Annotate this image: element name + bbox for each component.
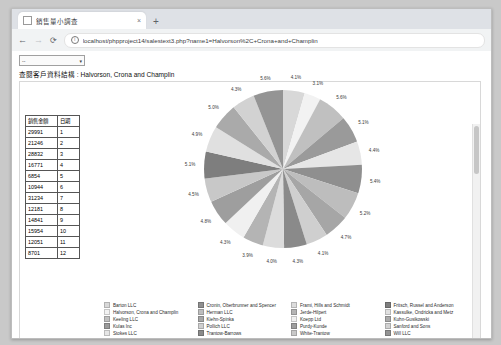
forward-icon[interactable]: → xyxy=(34,35,43,45)
legend-swatch xyxy=(291,330,297,336)
legend-swatch xyxy=(198,323,204,329)
chevron-down-icon: ▾ xyxy=(79,58,82,64)
legend-item: Herman LLC xyxy=(198,309,288,315)
slice-percent-label: 4.5% xyxy=(188,192,198,197)
legend-item: Fritsch, Russel and Anderson xyxy=(385,302,475,308)
legend-item: Kulas Inc xyxy=(104,323,194,329)
slice-percent-label: 5.6% xyxy=(260,75,270,80)
slice-percent-label: 5.6% xyxy=(336,94,346,99)
chart-legend: Barton LLCCronin, Oberbrunner and Spence… xyxy=(104,302,474,336)
legend-item: Sanford and Sons xyxy=(385,323,475,329)
pie-slices xyxy=(204,90,362,248)
legend-item: Cronin, Oberbrunner and Spencer xyxy=(198,302,288,308)
legend-label: Will LLC xyxy=(394,331,411,336)
legend-item: Kiehn-Spinka xyxy=(198,316,288,322)
slice-percent-label: 3.9% xyxy=(242,252,252,257)
legend-item: Koepp Ltd xyxy=(291,316,381,322)
legend-swatch xyxy=(291,302,297,308)
close-icon[interactable]: × xyxy=(137,17,141,24)
legend-swatch xyxy=(385,309,391,315)
customer-select-value: -- xyxy=(22,58,25,64)
cell-date: 8 xyxy=(58,204,80,215)
legend-label: Kassulke, Ondricka and Metz xyxy=(394,310,454,315)
tab-title: 銷售量小調查 xyxy=(36,16,133,26)
legend-swatch xyxy=(291,309,297,315)
url-text: localhost/phpproject14/salestext3.php?na… xyxy=(83,37,318,44)
cell-amount: 28832 xyxy=(26,149,58,160)
slice-percent-label: 5.4% xyxy=(370,178,380,183)
legend-item: Jerde-Hilpert xyxy=(291,309,381,315)
cell-date: 3 xyxy=(58,149,80,160)
cell-amount: 12181 xyxy=(26,204,58,215)
browser-tab[interactable]: 銷售量小調查 × xyxy=(18,12,146,29)
legend-item: White-Trantow xyxy=(291,330,381,336)
legend-swatch xyxy=(198,330,204,336)
slice-percent-label: 5.2% xyxy=(360,210,370,215)
column-header-amount: 銷售金額 xyxy=(26,116,58,127)
legend-item: Frami, Hills and Schmidt xyxy=(291,302,381,308)
new-tab-button[interactable]: + xyxy=(153,16,159,27)
legend-label: Kulas Inc xyxy=(113,324,132,329)
slice-percent-label: 4.4% xyxy=(369,148,379,153)
pie-chart: 4.1%3.1%5.6%5.1%4.4%5.4%5.2%4.7%4.1%4.3%… xyxy=(98,84,478,338)
legend-label: Pollich LLC xyxy=(207,324,230,329)
table-row: 288323 xyxy=(26,149,80,160)
browser-toolbar: ← → ⟳ i localhost/phpproject14/salestext… xyxy=(12,29,491,51)
legend-item: Pollich LLC xyxy=(198,323,288,329)
address-bar[interactable]: i localhost/phpproject14/salestext3.php?… xyxy=(64,33,485,48)
cell-date: 7 xyxy=(58,193,80,204)
cell-amount: 12051 xyxy=(26,237,58,248)
cell-date: 6 xyxy=(58,182,80,193)
table-row: 109446 xyxy=(26,182,80,193)
sales-table: 銷售金額 日期 29991121246228832316771468545109… xyxy=(25,115,80,259)
slice-percent-label: 5.1% xyxy=(185,162,195,167)
table-body: 2999112124622883231677146854510944631234… xyxy=(26,127,80,259)
legend-label: Fritsch, Russel and Anderson xyxy=(394,303,454,308)
cell-date: 11 xyxy=(58,237,80,248)
table-row: 212462 xyxy=(26,138,80,149)
info-icon[interactable]: i xyxy=(71,36,79,44)
cell-date: 4 xyxy=(58,160,80,171)
legend-label: Purdy-Kunde xyxy=(300,324,327,329)
back-icon[interactable]: ← xyxy=(18,35,27,45)
browser-window: 銷售量小調查 × + ← → ⟳ i localhost/phpproject1… xyxy=(11,8,492,339)
vertical-scrollbar[interactable] xyxy=(472,124,480,338)
slice-percent-label: 5.1% xyxy=(358,120,368,125)
customer-select[interactable]: -- ▾ xyxy=(19,55,85,66)
reload-icon[interactable]: ⟳ xyxy=(50,36,57,45)
page-content: -- ▾ 查閱客戶資料結構 : Halvorson, Crona and Cha… xyxy=(12,51,491,338)
legend-swatch xyxy=(104,330,110,336)
legend-label: Halvorson, Crona and Champlin xyxy=(113,310,178,315)
legend-swatch xyxy=(198,302,204,308)
report-panel: 銷售金額 日期 29991121246228832316771468545109… xyxy=(19,81,481,338)
legend-label: Kiehn-Spinka xyxy=(207,317,234,322)
legend-swatch xyxy=(104,316,110,322)
legend-item: Kassulke, Ondricka and Metz xyxy=(385,309,475,315)
table-row: 299911 xyxy=(26,127,80,138)
slice-percent-label: 4.3% xyxy=(293,258,303,263)
legend-swatch xyxy=(291,323,297,329)
legend-label: Frami, Hills and Schmidt xyxy=(300,303,350,308)
slice-percent-label: 4.8% xyxy=(201,218,211,223)
legend-item: Kuhn-Gusikowski xyxy=(385,316,475,322)
slice-percent-label: 4.7% xyxy=(341,235,351,240)
slice-percent-label: 4.1% xyxy=(318,250,328,255)
cell-amount: 15954 xyxy=(26,226,58,237)
table-header-row: 銷售金額 日期 xyxy=(26,116,80,127)
slice-percent-label: 3.1% xyxy=(313,80,323,85)
legend-label: Kuhn-Gusikowski xyxy=(394,317,430,322)
legend-swatch xyxy=(291,316,297,322)
slice-percent-label: 4.3% xyxy=(220,239,230,244)
pie-plot-area: 4.1%3.1%5.6%5.1%4.4%5.4%5.2%4.7%4.1%4.3%… xyxy=(188,90,378,262)
legend-swatch xyxy=(198,309,204,315)
legend-swatch xyxy=(198,316,204,322)
legend-label: Trantow-Barrows xyxy=(207,331,242,336)
cell-amount: 14841 xyxy=(26,215,58,226)
table-row: 312347 xyxy=(26,193,80,204)
legend-label: Cronin, Oberbrunner and Spencer xyxy=(207,303,276,308)
legend-swatch xyxy=(385,323,391,329)
page-title: 查閱客戶資料結構 : Halvorson, Crona and Champlin xyxy=(19,69,491,79)
cell-amount: 31234 xyxy=(26,193,58,204)
scrollbar-thumb[interactable] xyxy=(474,126,479,174)
legend-swatch xyxy=(104,302,110,308)
